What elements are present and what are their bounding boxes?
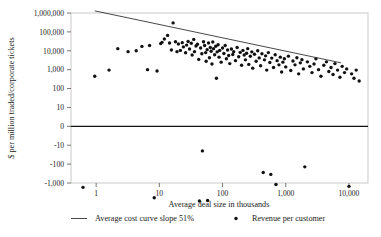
data-point [265, 68, 268, 71]
data-point [193, 50, 196, 53]
x-tick-label: 10 [156, 189, 164, 198]
data-point [263, 58, 266, 61]
data-point [213, 53, 216, 56]
data-point [241, 49, 244, 52]
data-point [155, 69, 158, 72]
data-point [254, 60, 257, 63]
data-point [168, 41, 171, 44]
data-point [93, 75, 96, 78]
y-tick-label: 10,000 [43, 47, 64, 56]
data-point [249, 55, 252, 58]
data-point [297, 72, 300, 75]
data-point [275, 59, 278, 62]
data-point [146, 68, 149, 71]
data-point [235, 46, 238, 49]
data-point [308, 65, 311, 68]
data-point [107, 68, 110, 71]
y-tick-label: -1,000 [44, 179, 64, 188]
data-point [174, 40, 177, 43]
data-point [216, 43, 219, 46]
data-point [331, 73, 334, 76]
y-tick-label: 10 [56, 103, 64, 112]
data-point [199, 46, 202, 49]
data-point [300, 58, 303, 61]
data-point [357, 79, 360, 82]
plot-frame [71, 13, 368, 183]
data-point [287, 54, 290, 57]
data-point [153, 196, 156, 199]
data-point [209, 46, 212, 49]
data-point [226, 48, 229, 51]
data-point [302, 67, 305, 70]
data-point [222, 52, 225, 55]
data-point [325, 60, 328, 63]
data-point [283, 57, 286, 60]
data-point [166, 34, 169, 37]
data-point [163, 37, 166, 40]
data-point [197, 58, 200, 61]
legend-dot-marker [234, 217, 237, 220]
data-point [322, 64, 325, 67]
data-point [251, 66, 254, 69]
y-tick-label: -10 [54, 141, 64, 150]
data-point [203, 44, 206, 47]
data-point [211, 40, 214, 43]
data-point [234, 59, 237, 62]
data-point [246, 47, 249, 50]
data-point [230, 47, 233, 50]
data-point [201, 149, 204, 152]
y-tick-label: 1,000,000 [34, 9, 65, 18]
data-point [281, 60, 284, 63]
data-point [347, 185, 350, 188]
data-point [299, 61, 302, 64]
y-tick-label: 100,000 [39, 28, 64, 37]
data-point [258, 56, 261, 59]
data-point [244, 58, 247, 61]
data-point [295, 56, 298, 59]
data-point [280, 70, 283, 73]
x-axis-title: Average deal size in thousands [169, 200, 270, 209]
data-point [208, 56, 211, 59]
data-point [175, 50, 178, 53]
data-point [81, 186, 84, 189]
data-point [284, 65, 287, 68]
data-point [269, 173, 272, 176]
data-point [274, 183, 277, 186]
data-point [247, 63, 250, 66]
data-point [182, 45, 185, 48]
data-point [186, 40, 189, 43]
chart-canvas: 1,000,000100,00010,0001,000100100-10-100… [0, 0, 381, 237]
data-point [225, 57, 228, 60]
data-point [319, 75, 322, 78]
y-tick-label: -100 [50, 160, 64, 169]
x-axis-ticks: 1101001,00010,000 [94, 183, 359, 198]
data-point [209, 49, 212, 52]
data-point [200, 52, 203, 55]
data-point [293, 63, 296, 66]
data-point [219, 60, 222, 63]
data-point [310, 71, 313, 74]
data-point [270, 56, 273, 59]
data-point [350, 72, 353, 75]
data-point [223, 44, 226, 47]
data-point [134, 49, 137, 52]
data-point [329, 66, 332, 69]
x-tick-label: 10,000 [339, 189, 360, 198]
data-point [336, 68, 339, 71]
data-point [312, 62, 315, 65]
data-point [279, 55, 282, 58]
data-point [227, 54, 230, 57]
data-point [204, 60, 207, 63]
data-point [264, 54, 267, 57]
data-point [259, 64, 262, 67]
data-point [126, 50, 129, 53]
data-point [116, 47, 119, 50]
x-tick-label: 100 [217, 189, 229, 198]
legend-label: Revenue per customer [252, 214, 325, 223]
data-point [327, 70, 330, 73]
data-point [202, 40, 205, 43]
data-point [207, 41, 210, 44]
data-point [210, 62, 213, 65]
data-point [317, 68, 320, 71]
data-point [204, 51, 207, 54]
